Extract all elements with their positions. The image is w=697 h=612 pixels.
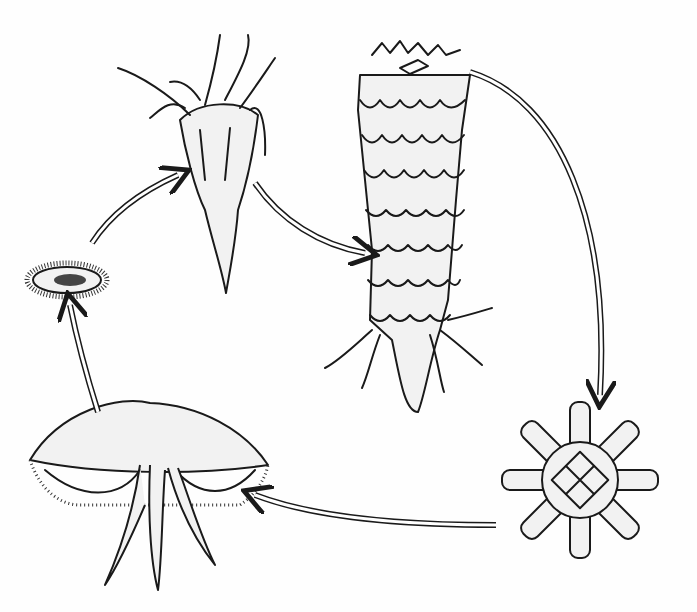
arrow-polyp-to-strobila (255, 183, 365, 253)
polyp-stage (118, 35, 275, 293)
arrow-planula-to-polyp (92, 175, 178, 243)
arrow-ephyra-to-medusa (255, 495, 496, 525)
ephyra-stage (502, 402, 658, 558)
planula-stage (27, 263, 107, 297)
arrow-medusa-to-planula (70, 305, 98, 412)
strobila-stage (325, 41, 492, 412)
medusa-stage (30, 401, 268, 590)
arrow-strobila-to-ephyra (470, 72, 601, 395)
life-cycle-diagram (0, 0, 697, 612)
